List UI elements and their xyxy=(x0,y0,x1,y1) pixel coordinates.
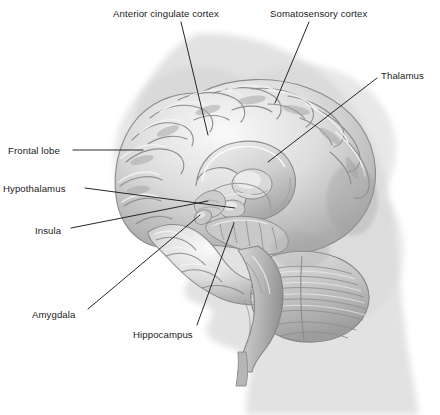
leader-line-hypothalamus xyxy=(85,188,235,208)
label-amygdala: Amygdala xyxy=(32,310,75,320)
leader-line-thalamus xyxy=(268,78,377,162)
leader-line-amygdala xyxy=(88,215,200,309)
leader-line-hippocampus xyxy=(197,223,234,325)
label-hypothalamus: Hypothalamus xyxy=(3,184,66,194)
label-anterior-cingulate-cortex: Anterior cingulate cortex xyxy=(113,9,219,19)
label-hippocampus: Hippocampus xyxy=(133,330,193,340)
brain-anatomy-figure: Anterior cingulate cortex Somatosensory … xyxy=(0,0,440,415)
leader-line-anterior-cingulate-cortex xyxy=(181,22,208,135)
label-somatosensory-cortex: Somatosensory cortex xyxy=(270,9,367,19)
leader-line-insula xyxy=(71,201,208,228)
leader-line-somatosensory-cortex xyxy=(275,22,309,103)
label-thalamus: Thalamus xyxy=(381,71,424,81)
label-frontal-lobe: Frontal lobe xyxy=(8,146,60,156)
leader-lines-layer xyxy=(0,0,440,415)
label-insula: Insula xyxy=(35,226,61,236)
